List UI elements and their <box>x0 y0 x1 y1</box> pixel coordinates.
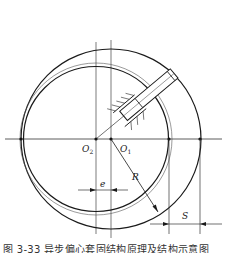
slider-rod <box>120 69 178 121</box>
label-o2: O2 <box>82 144 93 155</box>
point-o2 <box>94 137 97 140</box>
point-left-outer <box>19 137 22 140</box>
s-arrow-right <box>200 222 206 226</box>
label-o1: O1 <box>120 144 131 155</box>
label-eccentricity: e <box>100 179 105 189</box>
radius-arrowhead <box>153 205 159 213</box>
figure-caption: 图 3-33 异步偏心套固结构原理及结构示意图 <box>0 241 227 253</box>
e-arrow-left <box>90 188 96 192</box>
label-stroke: S <box>182 211 188 221</box>
e-arrow-right <box>111 188 117 192</box>
label-radius: R <box>131 172 139 182</box>
s-arrow-left <box>163 222 169 226</box>
